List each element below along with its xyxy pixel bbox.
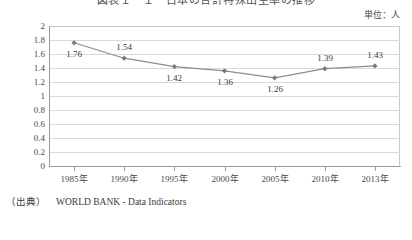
data-point-marker	[71, 40, 76, 45]
data-point-label: 1.36	[205, 77, 245, 87]
data-point-label: 1.76	[54, 49, 94, 59]
data-point-marker	[372, 63, 377, 68]
x-tick-mark	[124, 167, 125, 171]
data-point-label: 1.43	[355, 50, 395, 60]
data-point-label: 1.54	[104, 42, 144, 52]
data-point-label: 1.42	[154, 73, 194, 83]
x-tick-mark	[275, 167, 276, 171]
source-prefix: （出典）	[6, 197, 46, 207]
data-point-marker	[122, 56, 127, 61]
x-tick-label: 2013年	[345, 172, 405, 185]
data-point-marker	[322, 66, 327, 71]
data-point-label: 1.26	[255, 84, 295, 94]
data-point-marker	[272, 75, 277, 80]
source-note: （出典）WORLD BANK - Data Indicators	[6, 194, 186, 208]
data-point-marker	[172, 64, 177, 69]
x-tick-mark	[225, 167, 226, 171]
source-text: WORLD BANK - Data Indicators	[56, 197, 186, 207]
data-point-marker	[222, 68, 227, 73]
x-tick-mark	[74, 167, 75, 171]
x-tick-mark	[375, 167, 376, 171]
data-point-label: 1.39	[305, 53, 345, 63]
x-tick-mark	[174, 167, 175, 171]
x-tick-mark	[325, 167, 326, 171]
